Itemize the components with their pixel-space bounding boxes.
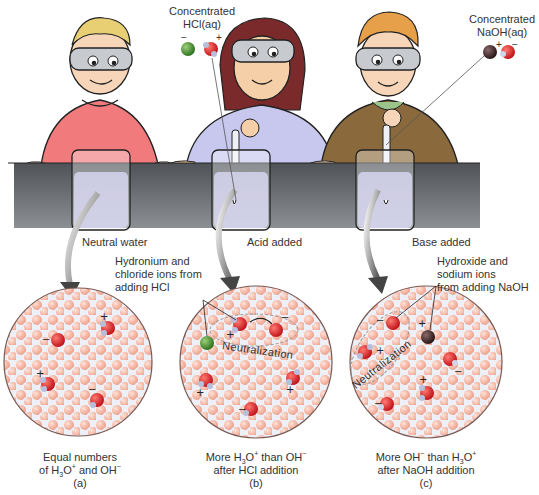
molecular-view-c bbox=[340, 280, 510, 450]
beaker-c bbox=[356, 150, 414, 230]
svg-text:−: − bbox=[281, 312, 289, 323]
caption-c: More OH− than H3O+ after NaOH addition (… bbox=[356, 451, 496, 490]
svg-text:−: − bbox=[42, 334, 50, 345]
annotation-line: from adding NaOH bbox=[437, 281, 529, 294]
panel-letter: (c) bbox=[356, 477, 496, 490]
svg-text:+: + bbox=[36, 368, 44, 379]
beaker-label-a: Neutral water bbox=[82, 236, 147, 249]
panel-letter: (a) bbox=[20, 477, 140, 490]
naoh-charge-plus: + bbox=[496, 38, 502, 51]
svg-text:−: − bbox=[88, 384, 96, 395]
caption-line: More OH− than H3O+ bbox=[356, 451, 496, 464]
svg-text:+: + bbox=[418, 318, 426, 329]
svg-text:+: + bbox=[286, 384, 294, 395]
caption-a: Equal numbers of H3O+ and OH− (a) bbox=[20, 451, 140, 490]
panel-letter: (b) bbox=[186, 477, 326, 490]
molecular-view-b bbox=[170, 280, 340, 450]
caption-b: More H3O+ than OH− after HCl addition (b… bbox=[186, 451, 326, 490]
beaker-label-c: Base added bbox=[412, 236, 471, 249]
reagent-label-line1: Concentrated bbox=[160, 5, 244, 18]
svg-text:+: + bbox=[226, 329, 234, 340]
reagent-label-line1: Concentrated bbox=[460, 13, 539, 26]
annotation-line: sodium ions bbox=[437, 268, 529, 281]
svg-text:−: − bbox=[376, 315, 384, 326]
beaker-label-b: Acid added bbox=[247, 236, 302, 249]
naoh-charge-minus: − bbox=[512, 38, 518, 51]
hcl-charge-plus: + bbox=[216, 31, 222, 44]
annotation-line: chloride ions from bbox=[115, 268, 202, 281]
caption-line: of H3O+ and OH− bbox=[20, 464, 140, 477]
svg-text:−: − bbox=[238, 404, 246, 415]
caption-line: Equal numbers bbox=[20, 451, 140, 464]
annotation-hcl: Hydronium and chloride ions from adding … bbox=[115, 255, 202, 294]
annotation-naoh: Hydroxide and sodium ions from adding Na… bbox=[437, 255, 529, 294]
annotation-line: Hydroxide and bbox=[437, 255, 529, 268]
svg-text:+: + bbox=[196, 387, 204, 398]
annotation-line: adding HCl bbox=[115, 281, 202, 294]
svg-text:+: + bbox=[419, 374, 427, 385]
caption-line: More H3O+ than OH− bbox=[186, 451, 326, 464]
caption-line: after HCl addition bbox=[186, 464, 326, 477]
reagent-label-naoh: Concentrated NaOH(aq) bbox=[460, 13, 539, 39]
svg-text:−: − bbox=[454, 366, 462, 377]
molecular-view-a bbox=[0, 280, 160, 450]
annotation-line: Hydronium and bbox=[115, 255, 202, 268]
hcl-charge-minus: − bbox=[181, 31, 187, 44]
caption-line: after NaOH addition bbox=[356, 464, 496, 477]
svg-text:+: + bbox=[100, 311, 108, 322]
svg-text:−: − bbox=[374, 398, 382, 409]
reagent-label-line2: HCl(aq) bbox=[160, 18, 244, 31]
reagent-label-hcl: Concentrated HCl(aq) bbox=[160, 5, 244, 31]
